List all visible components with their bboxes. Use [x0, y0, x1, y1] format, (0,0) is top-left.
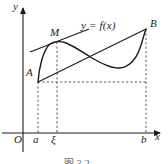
point-label-m: M — [50, 27, 59, 38]
figure-container: y x O a ξ b A M B y = f(x) 图 3-2 — [0, 0, 168, 164]
point-label-b: B — [150, 18, 157, 29]
figure-caption: 图 3-2 — [64, 159, 90, 164]
tick-label-xi: ξ — [51, 134, 56, 145]
tick-label-b: b — [141, 134, 147, 145]
origin-label: O — [14, 134, 22, 145]
tangent-line-at-m — [30, 29, 89, 52]
point-label-a: A — [26, 67, 33, 78]
y-axis-label: y — [13, 1, 18, 12]
guide-lines — [38, 29, 146, 133]
tick-label-a: a — [33, 134, 39, 145]
curve-equation-label: y = f(x) — [81, 20, 116, 31]
x-axis-label: x — [155, 131, 160, 142]
